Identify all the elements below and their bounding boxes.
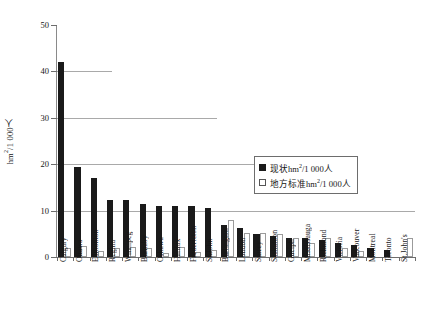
x-tick <box>301 257 302 261</box>
x-axis-label-mississauga: Mississauga <box>304 224 312 262</box>
y-tick-label-30: 30 <box>25 114 49 123</box>
x-axis-label-oshawa: Oshawa <box>157 237 165 262</box>
y-tick-label-10: 10 <box>25 207 49 216</box>
bar-group <box>286 25 302 257</box>
x-axis-label-regina: Regina <box>109 240 117 262</box>
bar-group <box>91 25 107 257</box>
y-axis-title-superscript: 2 <box>3 150 9 153</box>
bar-group <box>367 25 383 257</box>
chart-legend: 现状hm2/1 000人地方标准hm2/1 000人 <box>254 156 358 194</box>
y-axis-title-suffix: /1 000人 <box>5 118 15 150</box>
bar-group <box>188 25 204 257</box>
x-axis-label-saskatoon: Saskatoon <box>271 230 279 262</box>
legend-item: 地方标准hm2/1 000人 <box>259 175 351 190</box>
x-tick <box>57 257 58 261</box>
x-axis-label-burlington: Burlington <box>222 228 230 262</box>
x-tick <box>350 257 351 261</box>
y-axis-title: hm2/1 000人 <box>2 118 16 164</box>
x-axis-label-burnaby: Burnaby <box>141 235 149 262</box>
bar-group <box>302 25 318 257</box>
x-axis-label-st-john-s: St.John's <box>401 234 409 262</box>
bar-group <box>140 25 156 257</box>
plot-area <box>57 25 415 257</box>
bar-group <box>384 25 400 257</box>
y-tick-label-50: 50 <box>25 21 49 30</box>
bar-group <box>253 25 269 257</box>
x-axis-label-surrey: Surrey <box>255 241 263 262</box>
legend-swatch-standard-icon <box>259 179 266 186</box>
legend-item-label: 地方标准hm2/1 000人 <box>270 175 351 190</box>
bar-chart: hm2/1 000人 01020304050 CalgaryOttawaEdmo… <box>0 0 422 329</box>
x-axis-label-richmond: Richmond <box>320 230 328 262</box>
bar-group <box>319 25 335 257</box>
x-axis-label-london: London <box>239 238 247 262</box>
bar-group <box>172 25 188 257</box>
x-axis-label-calgary: Calgary <box>60 237 68 262</box>
x-axis-label-winnipeg: Winnipeg <box>125 232 133 262</box>
x-tick <box>236 257 237 261</box>
x-tick <box>106 257 107 261</box>
bar-group <box>351 25 367 257</box>
x-axis-label-victoria: Victoria <box>336 237 344 262</box>
x-axis-label-halifax: Halifax <box>174 239 182 262</box>
legend-swatch-current-icon <box>259 164 266 171</box>
bar-group <box>221 25 237 257</box>
x-axis-label-st-john: St.John <box>206 239 214 262</box>
legend-item: 现状hm2/1 000人 <box>259 160 351 175</box>
bar-group <box>270 25 286 257</box>
x-axis-label-guelph: Guelph <box>288 239 296 262</box>
bar-current <box>58 62 64 257</box>
x-tick <box>415 257 416 261</box>
x-axis-label-edmonton: Edmonton <box>92 230 100 262</box>
bar-group <box>107 25 123 257</box>
y-tick-label-20: 20 <box>25 160 49 169</box>
x-tick <box>171 257 172 261</box>
bar-group <box>74 25 90 257</box>
bar-group <box>123 25 139 257</box>
bar-group <box>58 25 74 257</box>
bar-group <box>156 25 172 257</box>
y-axis-title-text: hm <box>5 153 15 164</box>
legend-item-label: 现状hm2/1 000人 <box>270 160 333 175</box>
bar-group <box>205 25 221 257</box>
bar-group <box>237 25 253 257</box>
x-axis-label-fredericton: Fredericton <box>190 226 198 262</box>
y-tick-label-40: 40 <box>25 67 49 76</box>
bar-group <box>400 25 416 257</box>
x-axis-label-vancouver: Vancouver <box>353 229 361 262</box>
x-axis-label-toronto: Toronto <box>385 237 393 262</box>
y-tick-label-0: 0 <box>25 253 49 262</box>
x-tick <box>122 257 123 261</box>
x-axis-label-montreal: Montreal <box>369 233 377 262</box>
bar-group <box>335 25 351 257</box>
x-axis-label-ottawa: Ottawa <box>76 239 84 262</box>
x-tick <box>285 257 286 261</box>
